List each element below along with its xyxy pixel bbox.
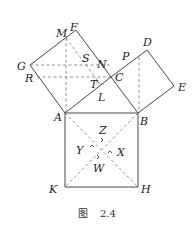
point-label-X: X [116,146,126,159]
right-angle-mark-X [108,151,112,153]
point-label-B: B [139,115,148,128]
point-label-F: F [69,21,78,34]
point-label-P: P [121,50,130,63]
point-label-Y: Y [76,144,85,157]
point-label-D: D [142,36,152,49]
point-label-N: N [96,58,107,71]
point-label-C: C [115,71,124,84]
right-angle-mark-W [97,155,99,159]
point-label-W: W [93,162,106,175]
point-labels: MFSGRNPDCTLEABZYXWKH [17,21,186,196]
right-angle-mark-Z [101,138,103,142]
right-angle-mark-Y [90,145,94,147]
figure-caption-char: 图 [78,208,88,219]
point-label-M: M [55,27,68,40]
point-label-T: T [90,78,99,91]
point-label-A: A [53,111,62,124]
point-label-K: K [48,183,58,196]
point-label-Z: Z [98,124,107,137]
point-label-S: S [82,52,90,65]
point-label-H: H [140,183,151,196]
point-label-R: R [24,72,33,85]
geometry-diagram: MFSGRNPDCTLEABZYXWKH 图 2.4 [0,0,196,233]
figure-caption-number: 2.4 [100,208,116,219]
point-label-L: L [97,91,105,104]
point-label-E: E [177,81,186,94]
